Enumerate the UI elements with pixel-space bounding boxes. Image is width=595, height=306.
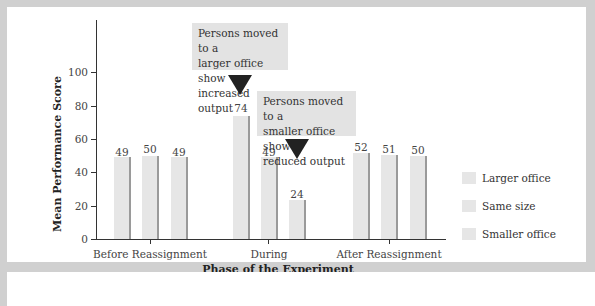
y-tick <box>91 206 96 207</box>
bar-during-smaller <box>289 200 306 239</box>
legend-swatch <box>462 200 476 212</box>
bar-after-same <box>381 155 398 239</box>
callout-text: Persons moved to a <box>198 26 282 56</box>
y-tick <box>91 139 96 140</box>
y-tick <box>91 239 96 240</box>
bar-after-smaller <box>410 156 427 239</box>
bar-during-same <box>261 157 278 239</box>
y-tick <box>91 172 96 173</box>
legend-label: Larger office <box>482 171 551 185</box>
value-label: 49 <box>164 146 194 158</box>
value-label: 52 <box>346 141 376 153</box>
bar-after-larger <box>353 153 370 239</box>
bar-before-smaller <box>171 157 188 239</box>
arrow-down-icon <box>228 75 252 95</box>
value-label: 49 <box>107 146 137 158</box>
y-axis-title: Mean Performance Score <box>52 74 64 234</box>
legend-label: Smaller office <box>482 227 556 241</box>
y-tick <box>91 106 96 107</box>
y-axis <box>96 20 97 240</box>
x-category-label: During <box>199 248 339 260</box>
legend-swatch <box>462 228 476 240</box>
value-label: 51 <box>374 143 404 155</box>
x-tick <box>268 240 269 244</box>
callout-text: Persons moved to a <box>263 94 350 124</box>
callout-smaller-office: Persons moved to a smaller office show r… <box>257 91 356 136</box>
arrow-down-icon <box>285 139 309 159</box>
x-category-label: After Reassignment <box>319 248 459 260</box>
caption-strip <box>7 272 595 306</box>
bar-before-same <box>142 156 159 239</box>
x-axis <box>96 239 446 240</box>
bar-during-larger <box>233 116 250 239</box>
value-label: 50 <box>135 143 165 155</box>
legend-label: Same size <box>482 199 535 213</box>
bar-before-larger <box>114 157 131 239</box>
legend-swatch <box>462 172 476 184</box>
x-tick <box>150 240 151 244</box>
callout-larger-office: Persons moved to a larger office show in… <box>192 23 288 70</box>
value-label: 24 <box>282 188 312 200</box>
y-tick-label: 0 <box>48 233 88 245</box>
x-tick <box>389 240 390 244</box>
y-tick <box>91 72 96 73</box>
value-label: 50 <box>403 144 433 156</box>
